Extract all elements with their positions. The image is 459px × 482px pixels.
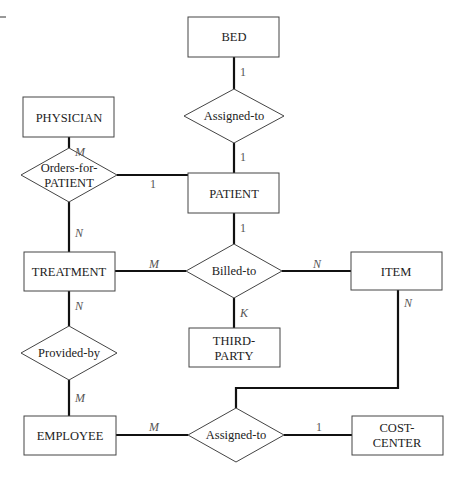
relationship-assigned-to-cost: Assigned-to (188, 408, 284, 462)
card-patient-billed: 1 (240, 221, 246, 235)
relationship-orders-label-1: Orders-for- (41, 161, 98, 175)
relationship-assigned-to-bed: Assigned-to (184, 89, 284, 143)
card-physician-orders: M (74, 145, 86, 159)
entity-treatment: TREATMENT (24, 252, 115, 291)
card-assigned-patient: 1 (240, 150, 246, 164)
entity-physician: PHYSICIAN (23, 97, 114, 137)
entity-cost-center-label-2: CENTER (373, 436, 422, 450)
relationship-orders-for-patient: Orders-for- PATIENT (21, 148, 117, 202)
entity-bed-label: BED (222, 30, 247, 44)
relationship-provided-by-label: Provided-by (38, 346, 101, 360)
entity-item-label: ITEM (381, 265, 412, 279)
entity-third-party: THIRD- PARTY (189, 328, 280, 367)
card-treatment-billed: M (148, 257, 160, 271)
entity-third-party-label-1: THIRD- (213, 334, 255, 348)
entity-cost-center: COST- CENTER (352, 416, 443, 455)
entity-bed: BED (188, 17, 279, 57)
entity-patient-label: PATIENT (209, 187, 259, 201)
entity-patient: PATIENT (188, 173, 279, 213)
relationship-billed-to-label: Billed-to (212, 264, 256, 278)
card-item-assigned: N (403, 296, 413, 310)
card-assigned-costcenter: 1 (316, 420, 322, 434)
card-billed-item: N (312, 257, 322, 271)
relationship-provided-by: Provided-by (21, 326, 117, 380)
card-bed-assigned: 1 (240, 65, 246, 79)
relationship-assigned-to-cost-label: Assigned-to (206, 428, 266, 442)
entity-physician-label: PHYSICIAN (36, 111, 103, 125)
card-orders-patient: 1 (150, 177, 156, 191)
card-orders-treatment: N (74, 226, 84, 240)
card-employee-assigned: M (148, 420, 160, 434)
entity-cost-center-label-1: COST- (380, 421, 415, 435)
er-diagram: BED PHYSICIAN PATIENT TREATMENT ITEM THI… (0, 0, 459, 482)
relationship-orders-label-2: PATIENT (44, 176, 94, 190)
entity-item: ITEM (351, 252, 442, 290)
card-treatment-provided: N (74, 299, 84, 313)
entity-treatment-label: TREATMENT (32, 265, 107, 279)
card-provided-employee: M (74, 391, 86, 405)
relationship-assigned-to-bed-label: Assigned-to (204, 109, 264, 123)
entity-employee: EMPLOYEE (24, 416, 116, 455)
relationship-billed-to: Billed-to (186, 244, 282, 298)
card-billed-thirdparty: K (239, 306, 249, 320)
entity-employee-label: EMPLOYEE (37, 429, 104, 443)
entity-third-party-label-2: PARTY (214, 349, 253, 363)
